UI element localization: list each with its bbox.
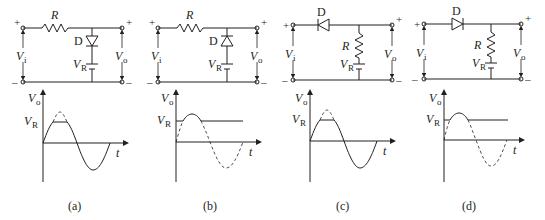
resistor-icon bbox=[487, 32, 495, 57]
diode-label: D bbox=[317, 5, 326, 19]
svg-text:o: o bbox=[303, 97, 308, 107]
circuit-d: + – + – D R V R V i V o bbox=[411, 4, 531, 85]
circuit-c: + – + – D R V R V i V o bbox=[281, 5, 402, 86]
svg-text:o: o bbox=[392, 53, 397, 63]
svg-text:R: R bbox=[434, 118, 440, 128]
svg-text:+: + bbox=[525, 12, 531, 24]
resistor-label: R bbox=[185, 8, 194, 22]
resistor-icon bbox=[355, 33, 363, 58]
svg-text:+: + bbox=[396, 13, 402, 25]
resistor-label: R bbox=[473, 38, 482, 52]
svg-text:–: – bbox=[524, 73, 531, 85]
resistor-label: R bbox=[50, 8, 59, 22]
svg-text:+: + bbox=[126, 16, 132, 28]
svg-text:R: R bbox=[480, 62, 486, 72]
svg-text:+: + bbox=[283, 19, 289, 31]
svg-text:R: R bbox=[165, 119, 171, 129]
diode-label: D bbox=[209, 34, 218, 48]
caption-b: (b) bbox=[203, 199, 217, 213]
svg-text:t: t bbox=[116, 146, 120, 160]
caption-a: (a) bbox=[68, 199, 81, 213]
svg-text:+: + bbox=[261, 16, 267, 28]
diode-icon bbox=[221, 36, 233, 46]
caption-d: (d) bbox=[462, 199, 476, 213]
svg-text:o: o bbox=[123, 55, 128, 65]
svg-text:R: R bbox=[348, 63, 354, 73]
resistor-icon bbox=[177, 24, 203, 32]
svg-text:t: t bbox=[383, 144, 387, 158]
caption-c: (c) bbox=[336, 199, 349, 213]
svg-text:t: t bbox=[249, 145, 253, 159]
svg-text:R: R bbox=[81, 63, 87, 73]
svg-text:o: o bbox=[36, 97, 41, 107]
svg-text:i: i bbox=[293, 53, 296, 63]
svg-text:t: t bbox=[513, 143, 517, 157]
diode-label: D bbox=[74, 34, 83, 48]
svg-text:i: i bbox=[424, 52, 427, 62]
clipper-circuits-figure: + – + – R D V R V i V o V o V R t (a) bbox=[0, 0, 545, 220]
circuit-a: + – + – R D V R V i V o bbox=[11, 8, 132, 88]
svg-text:o: o bbox=[258, 55, 263, 65]
panel-d: + – + – D R V R V i V o V o V R t (d) bbox=[411, 4, 531, 213]
svg-text:–: – bbox=[125, 76, 132, 88]
waveform-b: V o V R t bbox=[157, 91, 259, 182]
svg-text:o: o bbox=[521, 52, 526, 62]
diode-icon bbox=[452, 18, 463, 30]
svg-text:–: – bbox=[11, 76, 18, 88]
svg-text:+: + bbox=[414, 18, 420, 30]
panel-c: + – + – D R V R V i V o V o V R t (c) bbox=[281, 5, 402, 213]
waveform-a: V o V R t bbox=[24, 91, 126, 182]
panel-a: + – + – R D V R V i V o V o V R t (a) bbox=[11, 8, 132, 213]
svg-text:–: – bbox=[411, 73, 418, 85]
waveform-c: V o V R t bbox=[292, 91, 393, 182]
svg-text:i: i bbox=[159, 55, 162, 65]
svg-text:i: i bbox=[24, 55, 27, 65]
svg-text:o: o bbox=[169, 97, 174, 107]
diode-icon bbox=[86, 36, 98, 46]
svg-text:+: + bbox=[149, 16, 155, 28]
svg-text:–: – bbox=[146, 76, 153, 88]
waveform-d: V o V R t bbox=[426, 91, 522, 182]
svg-text:R: R bbox=[32, 120, 38, 130]
svg-text:–: – bbox=[395, 74, 402, 86]
svg-text:+: + bbox=[14, 16, 20, 28]
diode-icon bbox=[318, 19, 329, 31]
svg-text:R: R bbox=[300, 118, 306, 128]
resistor-icon bbox=[42, 24, 68, 32]
panel-b: + – + – R D V R V i V o V o V R t (b) bbox=[146, 8, 267, 213]
circuit-b: + – + – R D V R V i V o bbox=[146, 8, 267, 88]
diode-label: D bbox=[452, 4, 461, 18]
svg-text:R: R bbox=[216, 63, 222, 73]
svg-text:o: o bbox=[437, 97, 442, 107]
resistor-label: R bbox=[341, 39, 350, 53]
svg-text:–: – bbox=[281, 74, 288, 86]
svg-text:–: – bbox=[260, 76, 267, 88]
